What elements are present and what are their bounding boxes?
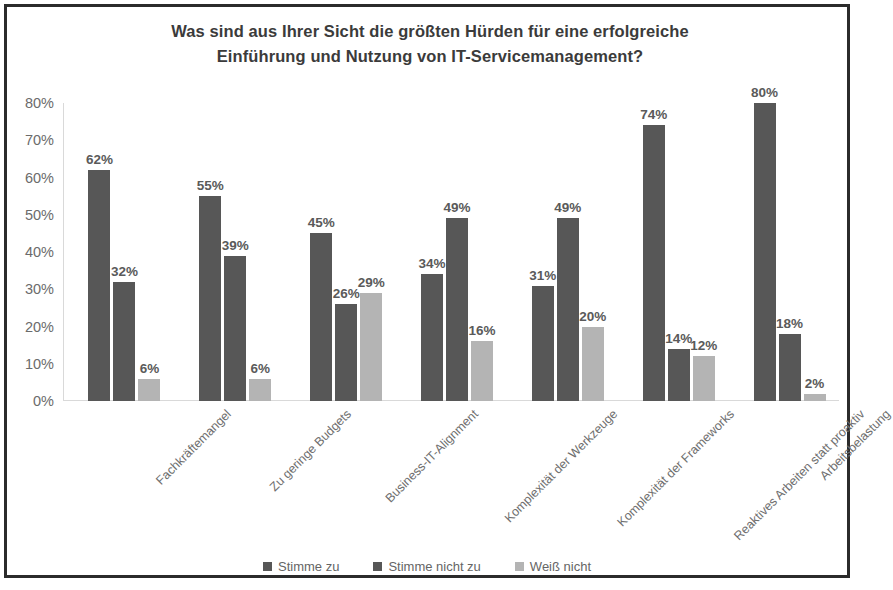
bar-rect xyxy=(335,304,357,401)
bar-rect xyxy=(643,125,665,401)
y-axis-tick-80: 80% xyxy=(25,95,54,111)
y-axis-tick-50: 50% xyxy=(25,207,54,223)
bar-rect xyxy=(471,341,493,401)
bar-value-label: 34% xyxy=(418,256,445,271)
bar-rect xyxy=(310,233,332,401)
bar-rect xyxy=(224,256,246,401)
bar-rect xyxy=(668,349,690,401)
y-axis-tick-10: 10% xyxy=(25,356,54,372)
legend-label: Weiß nicht xyxy=(530,559,591,574)
bar-value-label: 49% xyxy=(443,200,470,215)
bar-rect xyxy=(754,103,776,401)
y-axis-tick-0: 0% xyxy=(33,393,54,409)
legend-label: Stimme zu xyxy=(278,559,339,574)
bar-value-label: 18% xyxy=(776,316,803,331)
bar-value-label: 49% xyxy=(554,200,581,215)
bar-rect xyxy=(779,334,801,401)
chart-title-line-2: Einführung und Nutzung von IT-Serviceman… xyxy=(67,44,793,69)
chart-title: Was sind aus Ihrer Sicht die größten Hür… xyxy=(67,19,793,69)
bar-group: 31%49%20% xyxy=(532,103,604,401)
x-axis-category-label: Fachkräftemangel xyxy=(154,407,235,488)
bar-group: 80%18%2% xyxy=(754,103,826,401)
bar-group: 74%14%12% xyxy=(643,103,715,401)
bar-rect xyxy=(113,282,135,401)
x-axis-category-label: Zu geringe Budgets xyxy=(267,407,354,494)
bar-value-label: 14% xyxy=(665,331,692,346)
bar-rect xyxy=(249,379,271,401)
bar-value-label: 16% xyxy=(468,323,495,338)
x-axis-category-label: Business-IT-Alignment xyxy=(383,407,481,505)
bar-rect xyxy=(421,274,443,401)
legend-item[interactable]: Stimme nicht zu xyxy=(373,559,480,574)
y-axis-tick-20: 20% xyxy=(25,319,54,335)
y-axis-tick-70: 70% xyxy=(25,132,54,148)
bar-rect xyxy=(693,356,715,401)
x-axis-category-label: Komplexität der Werkzeuge xyxy=(502,407,620,525)
bar-rect xyxy=(804,394,826,401)
bar-value-label: 39% xyxy=(222,238,249,253)
y-axis-tick-30: 30% xyxy=(25,281,54,297)
legend-item[interactable]: Stimme zu xyxy=(263,559,339,574)
x-axis-category-label: Komplexität der Frameworks xyxy=(614,407,736,529)
bar-rect xyxy=(532,286,554,401)
bar-group: 34%49%16% xyxy=(421,103,493,401)
legend-label: Stimme nicht zu xyxy=(388,559,480,574)
chart-legend: Stimme zuStimme nicht zuWeiß nicht xyxy=(7,559,847,574)
bar-group: 55%39%6% xyxy=(199,103,271,401)
legend-swatch-icon xyxy=(515,562,524,571)
legend-swatch-icon xyxy=(373,562,382,571)
chart-title-line-1: Was sind aus Ihrer Sicht die größten Hür… xyxy=(67,19,793,44)
y-axis-tick-40: 40% xyxy=(25,244,54,260)
bar-rect xyxy=(446,218,468,401)
x-axis-category-label: Reaktives Arbeiten statt proaktiv xyxy=(731,407,867,543)
chart-frame: Was sind aus Ihrer Sicht die größten Hür… xyxy=(4,4,850,578)
bar-value-label: 80% xyxy=(751,85,778,100)
bar-rect xyxy=(582,327,604,402)
bar-value-label: 32% xyxy=(111,264,138,279)
bar-value-label: 26% xyxy=(333,286,360,301)
legend-swatch-icon xyxy=(263,562,272,571)
bar-value-label: 74% xyxy=(640,107,667,122)
bar-value-label: 45% xyxy=(308,215,335,230)
y-axis-line xyxy=(63,103,64,401)
bar-value-label: 6% xyxy=(140,361,160,376)
bar-group: 45%26%29% xyxy=(310,103,382,401)
bar-rect xyxy=(199,196,221,401)
bar-group: 62%32%6% xyxy=(88,103,160,401)
plot-area: 0%10%20%30%40%50%60%70%80% 62%32%6%55%39… xyxy=(63,103,839,401)
bar-value-label: 31% xyxy=(529,268,556,283)
bar-value-label: 62% xyxy=(86,152,113,167)
y-axis-tick-60: 60% xyxy=(25,170,54,186)
bar-value-label: 6% xyxy=(251,361,271,376)
bar-rect xyxy=(138,379,160,401)
bar-value-label: 2% xyxy=(805,376,825,391)
bar-value-label: 29% xyxy=(358,275,385,290)
bar-rect xyxy=(360,293,382,401)
legend-item[interactable]: Weiß nicht xyxy=(515,559,591,574)
bar-value-label: 20% xyxy=(579,309,606,324)
bar-value-label: 12% xyxy=(690,338,717,353)
bar-rect xyxy=(557,218,579,401)
bar-rect xyxy=(88,170,110,401)
bar-value-label: 55% xyxy=(197,178,224,193)
